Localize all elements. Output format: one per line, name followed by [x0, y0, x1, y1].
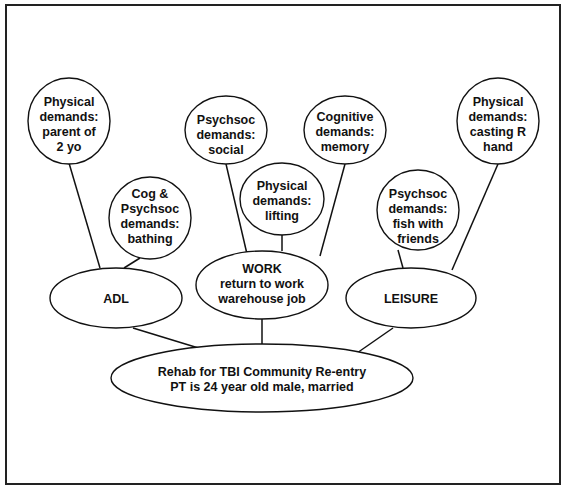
- svg-text:fish with: fish with: [393, 217, 444, 231]
- svg-text:2 yo: 2 yo: [56, 140, 81, 154]
- svg-text:lifting: lifting: [265, 209, 299, 223]
- svg-text:Physical: Physical: [44, 95, 95, 109]
- svg-text:friends: friends: [397, 232, 439, 246]
- svg-text:casting R: casting R: [470, 125, 526, 139]
- svg-text:return to work: return to work: [220, 277, 304, 291]
- svg-text:Rehab for TBI Community Re-ent: Rehab for TBI Community Re-entry: [158, 365, 366, 379]
- demand-node-parent: Physical demands: parent of 2 yo: [28, 78, 110, 164]
- svg-text:warehouse job: warehouse job: [217, 292, 306, 306]
- svg-text:Psychsoc: Psychsoc: [197, 113, 255, 127]
- category-node-work: WORK return to work warehouse job: [196, 251, 328, 319]
- svg-text:Physical: Physical: [473, 95, 524, 109]
- concept-map: Physical demands: parent of 2 yo Cog & P…: [0, 0, 564, 488]
- svg-text:Physical: Physical: [257, 179, 308, 193]
- svg-text:Cog &: Cog &: [132, 187, 169, 201]
- svg-text:Psychsoc: Psychsoc: [389, 187, 447, 201]
- svg-text:demands:: demands:: [252, 194, 311, 208]
- demand-node-bathing: Cog & Psychsoc demands: bathing: [109, 177, 191, 259]
- svg-text:demands:: demands:: [315, 125, 374, 139]
- svg-text:hand: hand: [483, 140, 513, 154]
- svg-text:bathing: bathing: [127, 232, 172, 246]
- category-node-adl: ADL: [50, 268, 182, 328]
- svg-text:memory: memory: [321, 140, 370, 154]
- svg-text:parent of: parent of: [42, 125, 96, 139]
- svg-text:WORK: WORK: [242, 262, 282, 276]
- svg-text:ADL: ADL: [103, 292, 129, 306]
- demand-node-social: Psychsoc demands: social: [185, 96, 267, 164]
- svg-text:demands:: demands:: [388, 202, 447, 216]
- svg-text:LEISURE: LEISURE: [384, 292, 438, 306]
- svg-text:demands:: demands:: [468, 110, 527, 124]
- demand-node-memory: Cognitive demands: memory: [304, 96, 386, 164]
- svg-text:demands:: demands:: [196, 128, 255, 142]
- svg-text:PT is 24 year old male, marrie: PT is 24 year old male, married: [170, 380, 353, 394]
- root-node: Rehab for TBI Community Re-entry PT is 2…: [111, 344, 413, 412]
- demand-node-lifting: Physical demands: lifting: [240, 163, 324, 235]
- category-node-leisure: LEISURE: [346, 268, 476, 328]
- svg-text:social: social: [208, 143, 243, 157]
- svg-text:Psychsoc: Psychsoc: [121, 202, 179, 216]
- svg-text:demands:: demands:: [39, 110, 98, 124]
- svg-text:Cognitive: Cognitive: [317, 110, 374, 124]
- svg-text:demands:: demands:: [120, 217, 179, 231]
- demand-node-casting: Physical demands: casting R hand: [457, 78, 539, 164]
- demand-node-fishing: Psychsoc demands: fish with friends: [377, 170, 459, 250]
